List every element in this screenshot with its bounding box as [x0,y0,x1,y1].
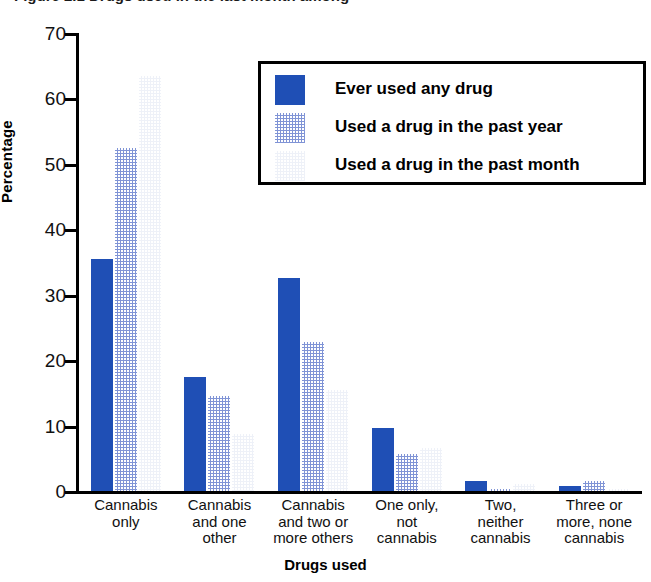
y-tick-label: 60 [20,89,66,108]
light-blue-swatch [275,151,305,181]
bar-group [79,33,173,491]
y-tick-mark [65,360,77,363]
figure-title-text: Figure 2.1 Drugs used in the last month … [14,0,349,4]
bar [91,259,113,491]
bar [302,342,324,491]
x-category-label-line: Three or [538,497,650,514]
bar [396,454,418,491]
legend-item-label: Used a drug in the past year [335,117,563,137]
y-tick-label: 30 [20,286,66,305]
cropped-figure-title: Figure 2.1 Drugs used in the last month … [0,0,651,7]
bar [559,486,581,491]
bar [278,278,300,491]
bar [232,434,254,491]
bar [465,481,487,491]
bar [326,390,348,491]
y-tick-mark [65,98,77,101]
y-tick-label: 70 [20,24,66,43]
bar [420,448,442,491]
bar [208,396,230,491]
y-tick-label: 0 [20,482,66,501]
y-tick-label: 10 [20,417,66,436]
bar [607,489,629,491]
x-axis-title: Drugs used [0,556,651,573]
y-tick-label: 40 [20,220,66,239]
bar [583,481,605,491]
y-axis-title: Percentage [0,63,15,203]
y-tick-mark [65,229,77,232]
x-axis-category-labels: CannabisonlyCannabisand oneotherCannabis… [76,497,645,559]
legend-item-label: Ever used any drug [335,79,493,99]
y-tick-mark [65,33,77,36]
medium-blue-swatch [275,113,305,143]
bar [513,484,535,491]
chart-legend: Ever used any drugUsed a drug in the pas… [258,61,646,185]
y-axis-tick-labels: 706050403020100 [14,33,66,494]
x-category-label-line: cannabis [538,530,650,547]
bar [372,428,394,491]
legend-item-label: Used a drug in the past month [335,155,580,175]
y-tick-mark [65,295,77,298]
bar [184,377,206,492]
bar [139,76,161,491]
x-category-label-line: more, none [538,514,650,531]
y-tick-mark [65,164,77,167]
y-tick-mark [65,491,77,494]
x-category-label: Three ormore, nonecannabis [538,497,650,547]
bar-group [173,33,267,491]
y-tick-mark [65,426,77,429]
y-tick-label: 50 [20,155,66,174]
bar [115,148,137,492]
y-tick-label: 20 [20,351,66,370]
bar [489,489,511,491]
solid-blue-swatch [275,75,305,105]
x-axis-line [76,491,642,494]
